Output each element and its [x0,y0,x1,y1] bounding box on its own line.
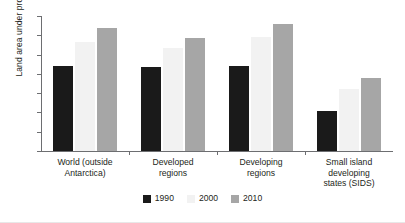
legend-label: 2000 [199,194,218,203]
bar-1990-2 [141,67,162,151]
y-axis-line [41,16,42,151]
y-axis-tick [37,16,41,17]
bar-1990-3 [229,66,250,151]
bar-2000-4 [339,89,360,151]
y-axis-tick [37,74,41,75]
chart-legend: 199020002010 [0,194,405,203]
plot-area: 02468101214 [41,16,393,151]
y-axis-tick [37,55,41,56]
x-axis-label-line: Antarctica) [41,168,129,179]
x-axis-label-2: Developedregions [129,157,217,178]
bar-chart-figure: Land area under protection, (%) 02468101… [0,0,405,223]
x-axis-label-line: states (SIDS) [305,178,393,189]
x-axis-label-line: Small island [305,157,393,168]
y-axis-tick [37,112,41,113]
legend-item-2010[interactable]: 2010 [231,194,262,203]
bar-1990-4 [317,111,338,151]
x-axis-label-1: World (outsideAntarctica) [41,157,129,178]
y-axis-tick [37,132,41,133]
bar-2000-2 [163,48,184,151]
x-axis-label-line: Developed [129,157,217,168]
x-axis-separator-tick [217,151,218,155]
x-axis-label-line: regions [217,168,305,179]
bar-1990-1 [53,66,74,151]
x-axis-label-line: World (outside [41,157,129,168]
legend-swatch-2000 [187,195,195,203]
bar-2010-2 [185,38,206,151]
bar-2010-3 [273,24,294,151]
bar-2000-3 [251,37,272,151]
x-axis-label-line: Developing [217,157,305,168]
y-axis-tick [37,93,41,94]
legend-label: 2010 [243,194,262,203]
y-axis-tick [37,35,41,36]
bar-2010-4 [361,78,382,151]
legend-label: 1990 [155,194,174,203]
x-axis-separator-tick [129,151,130,155]
legend-swatch-1990 [143,195,151,203]
legend-swatch-2010 [231,195,239,203]
bar-2010-1 [97,28,118,151]
x-axis-label-3: Developingregions [217,157,305,178]
y-axis-tick [37,151,41,152]
legend-item-1990[interactable]: 1990 [143,194,174,203]
bar-2000-1 [75,42,96,151]
x-axis-label-line: developing [305,168,393,179]
y-axis-title: Land area under protection, (%) [14,0,24,90]
x-axis-label-line: regions [129,168,217,179]
y-axis-title-container: Land area under protection, (%) [0,0,20,160]
x-axis-separator-tick [305,151,306,155]
legend-item-2000[interactable]: 2000 [187,194,218,203]
x-axis-label-4: Small islanddevelopingstates (SIDS) [305,157,393,189]
